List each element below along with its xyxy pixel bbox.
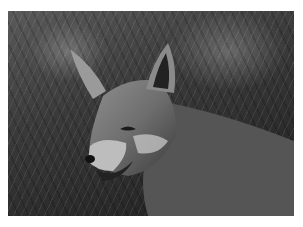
fox-photo [8, 11, 294, 216]
fox-figure [8, 11, 294, 216]
